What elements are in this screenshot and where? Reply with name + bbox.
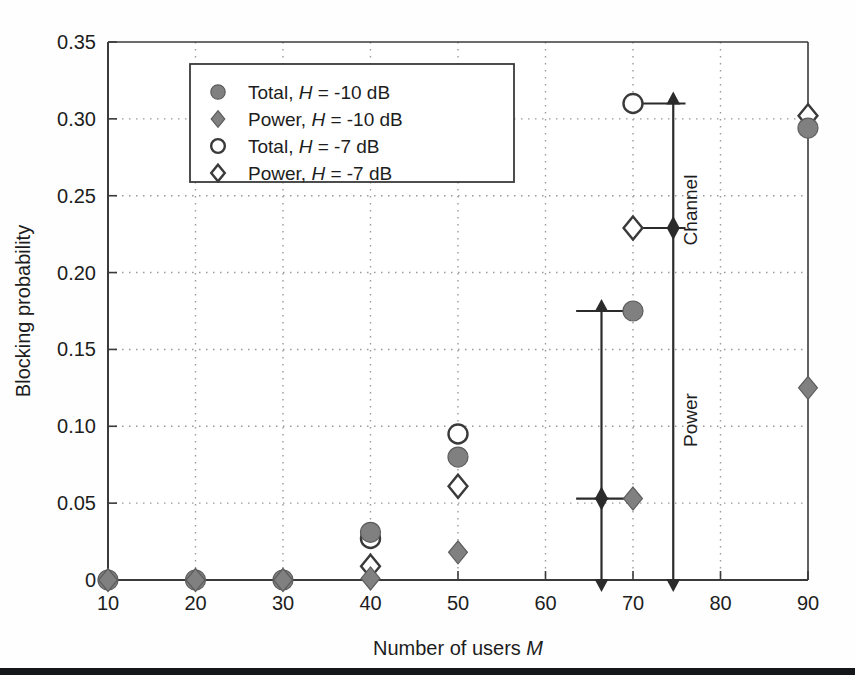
y-axis-title: Blocking probability <box>12 225 34 397</box>
y-tick-label: 0.25 <box>57 185 96 207</box>
x-tick-label: 50 <box>447 592 469 614</box>
marker-open-circle <box>211 139 225 153</box>
figure-container: 102030405060708090 00.050.100.150.200.25… <box>0 0 855 681</box>
y-tick-label: 0.30 <box>57 108 96 130</box>
x-tick-label: 30 <box>272 592 294 614</box>
annotation-label-power: Power <box>680 392 701 447</box>
y-tick-label: 0 <box>85 569 96 591</box>
legend-label-variable: H <box>299 136 313 157</box>
legend-label-suffix: = -7 dB <box>312 136 379 157</box>
x-axis-title-prefix: Number of users <box>373 637 526 659</box>
y-tick-label: 0.20 <box>57 262 96 284</box>
annotation-label-channel: Channel <box>680 175 701 246</box>
marker-open-circle <box>449 424 468 443</box>
marker-open-circle <box>624 94 643 113</box>
y-tick-label: 0.05 <box>57 492 96 514</box>
legend-label-prefix: Total, <box>248 82 299 103</box>
legend-label-suffix: = -10 dB <box>325 109 403 130</box>
legend-item-label: Total, H = -7 dB <box>248 136 380 157</box>
legend-label-variable: H <box>311 163 325 184</box>
y-tick-labels: 00.050.100.150.200.250.300.35 <box>57 31 96 591</box>
y-tick-label: 0.10 <box>57 415 96 437</box>
x-tick-label: 70 <box>622 592 644 614</box>
x-tick-label: 40 <box>359 592 381 614</box>
bottom-divider-rule <box>0 668 855 675</box>
legend: Total, H = -10 dBPower, H = -10 dBTotal,… <box>190 64 514 184</box>
legend-item-label: Power, H = -10 dB <box>248 109 403 130</box>
x-axis-title-variable: M <box>526 637 543 659</box>
marker-filled-circle <box>448 447 468 467</box>
x-tick-label: 80 <box>709 592 731 614</box>
marker-filled-circle <box>211 85 225 99</box>
marker-filled-circle <box>361 522 381 542</box>
legend-label-prefix: Total, <box>248 136 299 157</box>
legend-item-label: Power, H = -7 dB <box>248 163 392 184</box>
x-axis-title: Number of users M <box>373 637 543 659</box>
scatter-plot: 102030405060708090 00.050.100.150.200.25… <box>0 0 855 681</box>
legend-item-label: Total, H = -10 dB <box>248 82 390 103</box>
legend-label-suffix: = -7 dB <box>325 163 392 184</box>
x-tick-labels: 102030405060708090 <box>97 592 819 614</box>
x-tick-label: 10 <box>97 592 119 614</box>
marker-filled-circle <box>623 301 643 321</box>
legend-label-suffix: = -10 dB <box>312 82 390 103</box>
x-tick-label: 90 <box>797 592 819 614</box>
legend-label-variable: H <box>311 109 325 130</box>
legend-label-prefix: Power, <box>248 109 311 130</box>
y-tick-label: 0.35 <box>57 31 96 53</box>
x-tick-label: 20 <box>184 592 206 614</box>
legend-label-prefix: Power, <box>248 163 311 184</box>
y-tick-label: 0.15 <box>57 338 96 360</box>
marker-filled-circle <box>798 118 818 138</box>
x-tick-label: 60 <box>534 592 556 614</box>
legend-label-variable: H <box>299 82 313 103</box>
